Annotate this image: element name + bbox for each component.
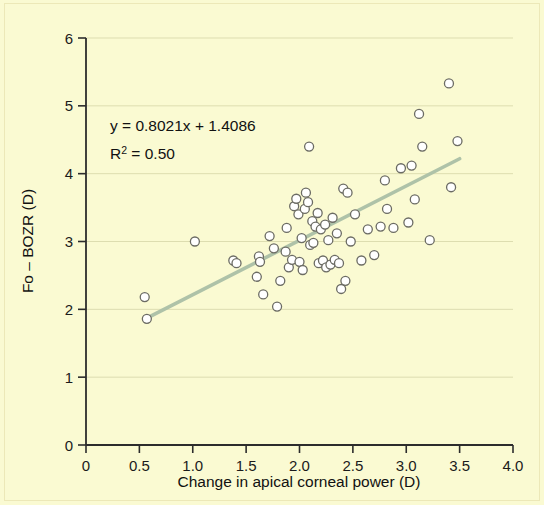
data-point — [256, 257, 265, 266]
data-point — [252, 272, 261, 281]
data-point — [313, 209, 322, 218]
y-axis-tick-label: 2 — [65, 301, 73, 318]
data-point — [425, 236, 434, 245]
data-point — [415, 109, 424, 118]
data-point — [407, 161, 416, 170]
data-point — [351, 210, 360, 219]
data-point — [142, 314, 151, 323]
y-axis-title: Fo – BOZR (D) — [19, 189, 36, 293]
x-axis-tick-label: 0 — [82, 457, 90, 474]
data-point — [404, 218, 413, 227]
data-point — [334, 259, 343, 268]
data-point — [410, 195, 419, 204]
data-point — [140, 293, 149, 302]
data-point — [281, 247, 290, 256]
data-point — [376, 222, 385, 231]
data-point — [444, 79, 453, 88]
data-point — [282, 223, 291, 232]
data-point — [396, 164, 405, 173]
x-axis-ticks — [86, 445, 513, 453]
data-point — [297, 234, 306, 243]
data-point — [304, 198, 313, 207]
data-point — [309, 238, 318, 247]
data-point — [321, 220, 330, 229]
r-squared-label: R2 = 0.50 — [110, 144, 175, 162]
x-axis-tick-label: 2.0 — [289, 457, 310, 474]
data-point — [276, 276, 285, 285]
y-axis-tick-label: 4 — [65, 165, 73, 182]
data-point — [332, 229, 341, 238]
data-point — [301, 188, 310, 197]
data-point — [273, 302, 282, 311]
data-point-group — [140, 79, 462, 323]
data-point — [453, 137, 462, 146]
y-axis-tick-label: 3 — [65, 233, 73, 250]
y-axis-tick-label: 0 — [65, 437, 73, 454]
data-point — [190, 237, 199, 246]
x-axis-tick-labels: 00.51.01.52.02.53.03.54.0 — [82, 457, 524, 474]
y-axis-tick-label: 1 — [65, 369, 73, 386]
data-point — [447, 183, 456, 192]
figure-container: 00.51.01.52.02.53.03.54.0 0123456 y = 0.… — [0, 0, 544, 505]
data-point — [343, 188, 352, 197]
gridlines — [86, 38, 513, 377]
y-axis-tick-label: 6 — [65, 30, 73, 47]
data-point — [232, 259, 241, 268]
data-point — [380, 176, 389, 185]
x-axis-tick-label: 0.5 — [129, 457, 150, 474]
x-axis-tick-label: 1.0 — [182, 457, 203, 474]
regression-equation-label: y = 0.8021x + 1.4086 — [110, 117, 256, 134]
y-axis-tick-labels: 0123456 — [65, 30, 73, 454]
x-axis-tick-label: 4.0 — [503, 457, 524, 474]
data-point — [370, 251, 379, 260]
x-axis-tick-label: 3.5 — [449, 457, 470, 474]
data-point — [328, 213, 337, 222]
data-point — [259, 290, 268, 299]
x-axis-title: Change in apical corneal power (D) — [178, 473, 421, 490]
data-point — [418, 142, 427, 151]
data-point — [363, 225, 372, 234]
data-point — [383, 204, 392, 213]
data-point — [305, 142, 314, 151]
y-axis-ticks — [78, 38, 86, 445]
x-axis-tick-label: 1.5 — [236, 457, 257, 474]
data-point — [357, 256, 366, 265]
data-point — [346, 237, 355, 246]
data-point — [341, 276, 350, 285]
data-point — [298, 265, 307, 274]
x-axis-tick-label: 2.5 — [342, 457, 363, 474]
scatter-plot: 00.51.01.52.02.53.03.54.0 0123456 y = 0.… — [0, 0, 544, 505]
data-point — [292, 194, 301, 203]
y-axis-tick-label: 5 — [65, 97, 73, 114]
data-point — [324, 236, 333, 245]
data-point — [269, 244, 278, 253]
x-axis-tick-label: 3.0 — [396, 457, 417, 474]
data-point — [265, 232, 274, 241]
data-point — [389, 223, 398, 232]
